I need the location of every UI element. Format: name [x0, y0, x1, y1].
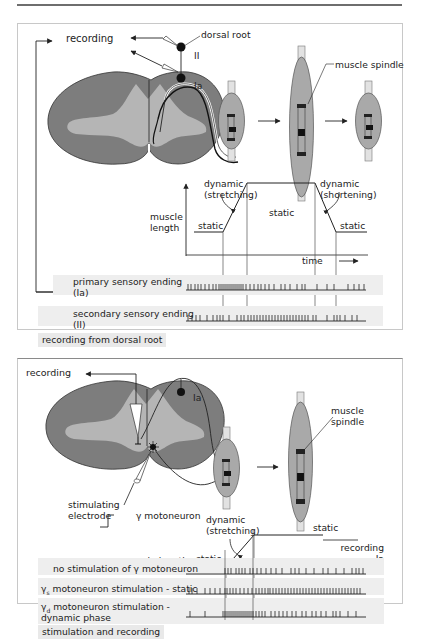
label-dynamic-shortening-1: dynamic [320, 178, 359, 189]
caption-recording-from-dorsal-root: recording from dorsal root [38, 333, 166, 347]
label-dynamic-phase: dynamic phase [41, 612, 111, 623]
label-muscle-length-1: muscle [150, 211, 183, 222]
label-no-stimulation: no stimulation of γ motoneuron [53, 563, 198, 574]
label-static-left: static [198, 220, 223, 231]
Ia-ganglion [177, 388, 185, 396]
dorsal-root-ganglion-II [177, 43, 186, 52]
label-stimulating-1: stimulating [68, 499, 120, 510]
label-muscle-spindle-2b: spindle [331, 416, 364, 427]
recording-feedback-line [36, 41, 58, 292]
recording-electrodes [131, 36, 178, 72]
muscle-length-graph [186, 183, 368, 324]
label-secondary-II: (II) [73, 319, 86, 330]
label-muscle-length-2: length [150, 222, 179, 233]
label-dynamic-1: dynamic [206, 514, 245, 525]
label-dynamic-stretching-2: (stretching) [204, 189, 257, 200]
dorsal-root-ganglion-Ia [177, 74, 186, 83]
label-fiber-Ia: Ia [194, 80, 202, 91]
header-rule [17, 4, 402, 6]
muscle-spindle-shortened [356, 81, 382, 161]
dorsal-root-leader [184, 36, 200, 46]
label-muscle-spindle-2a: muscle [331, 405, 364, 416]
label-time: time [302, 255, 323, 266]
label-static-mid: static [269, 207, 294, 218]
label-recording: recording [66, 33, 113, 44]
label-muscle-spindle: muscle spindle [335, 59, 404, 70]
label-dynamic-stretching-1: dynamic [204, 178, 243, 189]
label-static-right: static [340, 220, 365, 231]
label-gamma-s-stimulation: γs motoneuron stimulation - static [41, 583, 197, 598]
label-secondary-sensory-ending: secondary sensory ending [73, 308, 194, 319]
label-recording-Ia-1: recording [338, 542, 384, 553]
label-fiber-Ia-2: Ia [193, 392, 201, 403]
label-fiber-II: II [194, 50, 199, 61]
muscle-spindle-stretched-2 [289, 392, 313, 531]
caption-stimulation-and-recording: stimulation and recording [38, 625, 164, 639]
label-primary-Ia: (Ia) [73, 287, 89, 298]
label-dynamic-2: (stretching) [206, 525, 259, 536]
label-gamma-motoneuron: γ motoneuron [136, 510, 200, 521]
label-dorsal-root: dorsal root [201, 29, 251, 40]
label-primary-sensory-ending: primary sensory ending [73, 276, 182, 287]
label-dynamic-shortening-2: (shortening) [320, 189, 376, 200]
label-recording-2: recording [26, 367, 71, 378]
label-static-top: static [313, 522, 338, 533]
muscle-spindle-stretched [290, 46, 314, 201]
label-stimulating-2: electrode [68, 510, 111, 521]
panel-recording-from-dorsal-root: recording dorsal root II Ia muscle spind… [17, 23, 403, 330]
muscle-spindle-resting [219, 81, 245, 161]
